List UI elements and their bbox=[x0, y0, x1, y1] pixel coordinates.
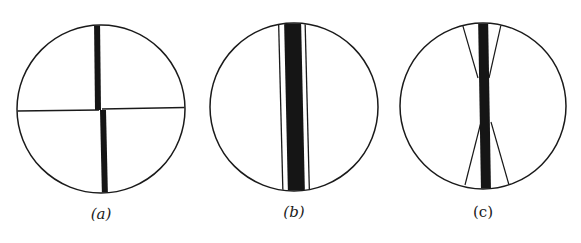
vertical-bar bbox=[478, 14, 491, 192]
thick-dark-band bbox=[284, 18, 305, 196]
thin-line-right bbox=[305, 18, 310, 196]
vertical-bar-upper bbox=[94, 20, 101, 110]
horizontal-crosshair-left bbox=[16, 110, 99, 111]
field-circle-a bbox=[17, 25, 185, 193]
panel-label-b: (b) bbox=[283, 203, 304, 221]
hourglass-line-lower-right bbox=[491, 122, 509, 185]
panel-c: (c) bbox=[400, 14, 566, 221]
panel-label-a: (a) bbox=[91, 205, 112, 223]
panel-a-content bbox=[16, 20, 186, 198]
diagram-canvas: (a) (b) bbox=[0, 0, 581, 243]
panel-b: (b) bbox=[210, 18, 378, 221]
vertical-bar-lower bbox=[100, 110, 108, 198]
figure-three-panels: (a) (b) bbox=[0, 0, 581, 243]
panel-label-c: (c) bbox=[473, 203, 493, 221]
hourglass-line-lower-left bbox=[465, 122, 481, 185]
panel-c-content bbox=[460, 14, 509, 192]
thin-line-left bbox=[279, 18, 284, 196]
panel-a: (a) bbox=[16, 20, 186, 223]
horizontal-crosshair-right bbox=[102, 108, 186, 110]
panel-b-content bbox=[279, 18, 310, 196]
